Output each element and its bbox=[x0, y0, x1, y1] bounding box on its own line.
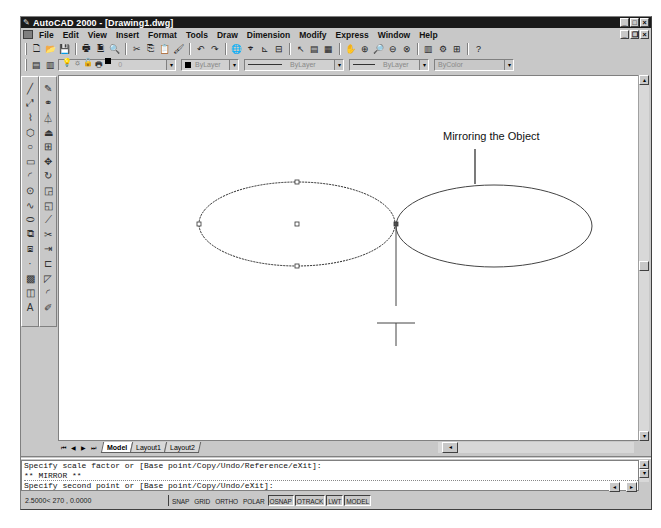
ellipse-icon[interactable]: ⬭ bbox=[23, 212, 37, 227]
color-dropdown[interactable]: ByLayer ▾ bbox=[181, 59, 239, 71]
layer-previous-icon[interactable]: ▥ bbox=[44, 58, 57, 71]
multiline-text-icon[interactable]: A bbox=[23, 300, 37, 315]
line-icon[interactable]: ╱ bbox=[23, 81, 37, 96]
scroll-up-button[interactable]: ▴ bbox=[639, 75, 649, 85]
stretch-icon[interactable]: ◱ bbox=[41, 198, 55, 213]
print-preview-icon[interactable]: 🗎 bbox=[94, 42, 107, 55]
menu-draw[interactable]: Draw bbox=[217, 30, 238, 40]
minimize-button[interactable]: _ bbox=[620, 18, 629, 27]
document-icon[interactable] bbox=[23, 30, 33, 39]
linetype-dropdown[interactable]: ByLayer ▾ bbox=[244, 59, 344, 71]
coordinates-display[interactable]: 2.5000< 270 , 0.0000 bbox=[25, 497, 168, 504]
scroll-left-button[interactable]: ◂ bbox=[442, 442, 458, 453]
chevron-down-icon[interactable]: ▾ bbox=[166, 60, 175, 70]
zoom-previous-icon[interactable]: ⊖ bbox=[386, 42, 399, 55]
help-icon[interactable]: ? bbox=[472, 42, 485, 55]
chevron-down-icon[interactable]: ▾ bbox=[504, 60, 513, 70]
print-icon[interactable]: 🖶 bbox=[80, 42, 93, 55]
command-line[interactable]: Specify scale factor or [Base point/Copy… bbox=[21, 460, 639, 491]
point-icon[interactable]: · bbox=[23, 256, 37, 271]
cut-icon[interactable]: ✂ bbox=[130, 42, 143, 55]
menu-file[interactable]: File bbox=[39, 30, 54, 40]
circle-center-icon[interactable]: ⊙ bbox=[23, 183, 37, 198]
menu-dimension[interactable]: Dimension bbox=[247, 30, 290, 40]
command-scrollbar[interactable]: ▴ ▾ bbox=[639, 460, 649, 482]
region-icon[interactable]: ◫ bbox=[23, 285, 37, 300]
menu-express[interactable]: Express bbox=[336, 30, 369, 40]
menu-edit[interactable]: Edit bbox=[63, 30, 79, 40]
design-center-icon[interactable]: ▦ bbox=[322, 42, 335, 55]
array-icon[interactable]: ⊞ bbox=[41, 139, 55, 154]
trim-icon[interactable]: ✂ bbox=[41, 227, 55, 242]
properties-icon[interactable]: ▤ bbox=[308, 42, 321, 55]
doc-close-button[interactable]: × bbox=[640, 30, 649, 39]
express-tools-icon[interactable]: ⚙ bbox=[436, 42, 449, 55]
zoom-window-icon[interactable]: 🔎 bbox=[372, 42, 385, 55]
zoom-realtime-icon[interactable]: ⊕ bbox=[358, 42, 371, 55]
toolbar-grip[interactable] bbox=[25, 59, 27, 71]
redo-icon[interactable]: ↷ bbox=[208, 42, 221, 55]
command-scroll-left[interactable]: ◂ bbox=[609, 482, 620, 492]
scroll-down-button[interactable]: ▾ bbox=[639, 431, 649, 441]
break-icon[interactable]: ⊏ bbox=[41, 256, 55, 271]
arc-icon[interactable]: ◜ bbox=[23, 169, 37, 184]
plotstyle-dropdown[interactable]: ByColor ▾ bbox=[434, 59, 514, 71]
menu-insert[interactable]: Insert bbox=[116, 30, 139, 40]
new-icon[interactable]: 🗋 bbox=[30, 42, 43, 55]
status-toggle-otrack[interactable]: OTRACK bbox=[295, 495, 326, 506]
horizontal-scrollbar[interactable]: ◂ bbox=[438, 442, 634, 453]
status-toggle-model[interactable]: MODEL bbox=[344, 495, 371, 506]
doc-restore-button[interactable]: ❐ bbox=[630, 30, 639, 39]
menu-view[interactable]: View bbox=[88, 30, 107, 40]
rotate-icon[interactable]: ↻ bbox=[41, 169, 55, 184]
undo-icon[interactable]: ↶ bbox=[194, 42, 207, 55]
lineweight-dropdown[interactable]: ByLayer ▾ bbox=[349, 59, 429, 71]
status-toggle-polar[interactable]: POLAR bbox=[241, 495, 267, 506]
chamfer-icon[interactable]: ◸ bbox=[41, 271, 55, 286]
menu-modify[interactable]: Modify bbox=[299, 30, 326, 40]
command-scroll-right[interactable]: ▸ bbox=[626, 482, 637, 492]
menu-help[interactable]: Help bbox=[419, 30, 437, 40]
insert-block-icon[interactable]: ⧉ bbox=[23, 227, 37, 242]
toolbar-grip[interactable] bbox=[25, 43, 27, 55]
scroll-thumb[interactable] bbox=[639, 261, 649, 271]
scale-icon[interactable]: ◲ bbox=[41, 183, 55, 198]
mirror-icon[interactable]: ⏃ bbox=[41, 110, 55, 125]
redraw-icon[interactable]: ↖ bbox=[294, 42, 307, 55]
paste-icon[interactable]: 📋 bbox=[158, 42, 171, 55]
tab-last-icon[interactable]: ⏭ bbox=[88, 443, 98, 453]
zoom-extents-icon[interactable]: ⊗ bbox=[400, 42, 413, 55]
inquiry-icon[interactable]: ⊟ bbox=[272, 42, 285, 55]
status-toggle-ortho[interactable]: ORTHO bbox=[213, 495, 240, 506]
tab-prev-icon[interactable]: ◀ bbox=[68, 443, 78, 453]
menu-window[interactable]: Window bbox=[378, 30, 411, 40]
status-toggle-snap[interactable]: SNAP bbox=[170, 495, 191, 506]
drawing-area[interactable]: Mirroring the Object bbox=[58, 75, 638, 441]
status-toggle-grid[interactable]: GRID bbox=[192, 495, 212, 506]
lengthen-icon[interactable]: ⟋ bbox=[41, 212, 55, 227]
tab-first-icon[interactable]: ⏮ bbox=[58, 443, 68, 453]
status-toggle-lwt[interactable]: LWT bbox=[326, 495, 343, 506]
find-icon[interactable]: 🔍 bbox=[108, 42, 121, 55]
object-snap-icon[interactable]: ⌖ bbox=[244, 42, 257, 55]
layers-icon[interactable]: ⊞ bbox=[450, 42, 463, 55]
offset-icon[interactable]: ⏏ bbox=[41, 125, 55, 140]
chevron-down-icon[interactable]: ▾ bbox=[229, 60, 238, 70]
menu-tools[interactable]: Tools bbox=[186, 30, 208, 40]
maximize-button[interactable]: □ bbox=[630, 18, 639, 27]
menu-format[interactable]: Format bbox=[148, 30, 177, 40]
polyline-icon[interactable]: ⌇ bbox=[23, 110, 37, 125]
hyperlink-icon[interactable]: 🌐 bbox=[230, 42, 243, 55]
autocad-app-icon[interactable]: ✎ bbox=[23, 19, 31, 27]
construction-line-icon[interactable]: ⤢ bbox=[23, 96, 37, 111]
command-splitter[interactable] bbox=[21, 456, 651, 459]
vertical-scrollbar[interactable]: ▴ ▾ bbox=[638, 75, 649, 441]
command-scroll-down[interactable]: ▾ bbox=[639, 469, 649, 478]
make-block-icon[interactable]: ⧈ bbox=[23, 242, 37, 257]
explode-icon[interactable]: ✐ bbox=[41, 300, 55, 315]
make-object-layer-current-icon[interactable]: ▤ bbox=[30, 58, 43, 71]
close-button[interactable]: × bbox=[640, 18, 649, 27]
tab-layout1[interactable]: Layout1 bbox=[130, 442, 167, 453]
command-scroll-up[interactable]: ▴ bbox=[639, 460, 649, 469]
extend-icon[interactable]: ⇥ bbox=[41, 242, 55, 257]
